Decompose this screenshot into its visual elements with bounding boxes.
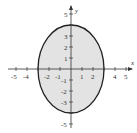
x-tick-label: -2: [44, 73, 50, 81]
y-tick-label: 2: [64, 44, 68, 52]
y-tick-label: 5: [64, 11, 68, 19]
x-axis-arrow-icon: [128, 67, 133, 71]
x-axis-label: x: [130, 59, 135, 67]
y-tick-label: -1: [61, 77, 67, 85]
y-tick-label: 1: [64, 55, 68, 63]
x-tick-label: 4: [113, 73, 117, 81]
x-tick-label: -5: [11, 73, 17, 81]
ellipse-diagram: -5 -4 -2 -1 1 2 4 5 5 3 2 1 -1 -2 -3 -5 …: [0, 0, 137, 133]
y-axis-arrow-icon: [69, 5, 73, 10]
y-tick-label: -3: [61, 99, 67, 107]
x-tick-label: 5: [124, 73, 128, 81]
y-axis-label: y: [74, 7, 79, 15]
y-tick-label: 3: [64, 33, 68, 41]
x-tick-label: 2: [91, 73, 95, 81]
y-tick-label: -5: [61, 121, 67, 129]
x-tick-label: 1: [80, 73, 84, 81]
y-tick-label: -2: [61, 88, 67, 96]
x-tick-label: -4: [23, 73, 29, 81]
